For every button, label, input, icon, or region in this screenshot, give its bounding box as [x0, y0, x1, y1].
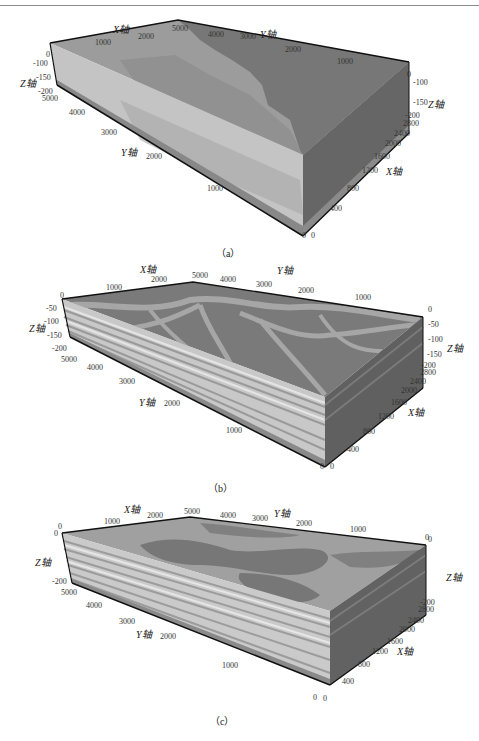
y-tick-back: 3000: [256, 280, 272, 289]
y-tick-front: 0: [313, 693, 317, 702]
x-tick-back: 1000: [106, 283, 122, 292]
figure-panel-c: X轴 1000 2000 5000 4000 3000 Y轴 2000 1000…: [0, 495, 479, 741]
x-tick-right: 2400: [394, 129, 410, 138]
y-tick-back: 1000: [350, 525, 366, 534]
x-tick-right: 400: [330, 204, 342, 213]
y-tick-front: 2000: [160, 632, 176, 641]
y-tick-front: 4000: [69, 108, 85, 117]
x-tick-right: 1600: [387, 637, 403, 646]
block-model-b: [0, 255, 479, 495]
x-tick-back: 2000: [151, 275, 167, 284]
x-axis-title-right: X轴: [408, 407, 424, 418]
y-tick-back: 0: [428, 305, 432, 314]
x-tick-right: 2400: [408, 616, 424, 625]
panel-caption-c: （c）: [210, 716, 234, 727]
x-tick-right: 2400: [410, 377, 426, 386]
y-tick-front: 0: [302, 231, 306, 240]
figure-panel-b: X轴 1000 2000 5000 4000 Y轴 3000 2000 1000…: [0, 255, 479, 495]
y-tick-back: 3000: [252, 514, 268, 523]
y-tick-back: 4000: [220, 511, 236, 520]
y-tick-back: 5000: [172, 24, 188, 33]
x-tick-right: 2800: [420, 368, 436, 377]
y-tick-front: 5000: [61, 588, 77, 597]
x-tick-back: 1000: [95, 38, 111, 47]
x-axis-title-back: X轴: [113, 24, 129, 35]
x-tick-right: 2000: [399, 625, 415, 634]
y-tick-back: 2000: [296, 519, 312, 528]
y-tick-back: 0: [407, 70, 411, 79]
z-tick-left: 0: [54, 529, 58, 538]
y-tick-front: 1000: [226, 426, 242, 435]
x-axis-title-back: X轴: [140, 264, 156, 275]
x-tick-back: 2000: [147, 511, 163, 520]
x-tick-right: 2000: [401, 386, 417, 395]
y-axis-title-back: Y轴: [277, 265, 293, 276]
z-axis-title-right: Z轴: [447, 343, 463, 354]
x-tick-right: 1200: [362, 166, 378, 175]
x-tick-right: 1600: [391, 398, 407, 407]
y-tick-front: 3000: [119, 617, 135, 626]
y-tick-front: 2000: [164, 399, 180, 408]
z-axis-title-left: Z轴: [29, 323, 45, 334]
z-tick-left: -50: [46, 304, 57, 313]
y-tick-back: 5000: [192, 271, 208, 280]
x-axis-title-right: X轴: [397, 646, 413, 657]
z-tick-right: -100: [428, 335, 443, 344]
z-tick-left: -200: [52, 577, 67, 586]
x-tick-right: 800: [347, 184, 359, 193]
y-axis-title-front: Y轴: [139, 397, 155, 408]
y-tick-front: 2000: [146, 152, 162, 161]
z-tick-right: -50: [428, 320, 439, 329]
z-axis-title-left: Z轴: [35, 557, 51, 568]
y-tick-back: 1000: [337, 57, 353, 66]
x-axis-title-right: X轴: [386, 166, 402, 177]
y-tick-back: 2000: [298, 286, 314, 295]
y-tick-front: 4000: [87, 363, 103, 372]
x-tick-back: 2000: [138, 32, 154, 41]
z-tick-left: 0: [46, 50, 50, 59]
y-tick-front: 1000: [207, 184, 223, 193]
y-axis-title-back: Y轴: [260, 29, 276, 40]
x-tick-right: 0: [323, 694, 327, 703]
z-tick-left: 0: [60, 291, 64, 300]
z-tick-right: -100: [413, 78, 428, 87]
y-tick-front: 3000: [101, 128, 117, 137]
y-tick-front: 0: [320, 462, 324, 471]
panel-caption-b: （b）: [208, 483, 233, 494]
y-tick-back: 5000: [184, 507, 200, 516]
y-tick-back: 4000: [220, 275, 236, 284]
y-tick-back: 3000: [240, 32, 256, 41]
x-tick-right: 1200: [378, 412, 394, 421]
y-tick-back: 1000: [355, 293, 371, 302]
z-tick-right: -150: [427, 350, 442, 359]
x-tick-right: 0: [311, 231, 315, 240]
z-tick-left: 0: [58, 522, 62, 531]
z-axis-title-right: Z轴: [428, 99, 444, 110]
x-tick-right: 400: [342, 677, 354, 686]
x-tick-right: 2800: [418, 605, 434, 614]
z-tick-right: 0: [428, 535, 432, 544]
y-tick-back: 2000: [285, 45, 301, 54]
x-tick-right: 800: [358, 660, 370, 669]
y-tick-front: 4000: [86, 601, 102, 610]
z-tick-right: -150: [413, 98, 428, 107]
z-tick-left: -100: [33, 59, 48, 68]
x-tick-right: 0: [330, 462, 334, 471]
y-tick-back: 4000: [208, 30, 224, 39]
y-axis-title-front: Y轴: [121, 147, 137, 158]
y-axis-title-front: Y轴: [136, 629, 152, 640]
z-tick-left: -100: [44, 317, 59, 326]
y-tick-front: 1000: [222, 661, 238, 670]
y-tick-front: 5000: [61, 355, 77, 364]
figure-panel-a: X轴 1000 2000 5000 4000 3000 Y轴 2000 1000…: [0, 0, 479, 250]
y-tick-front: 5000: [42, 94, 58, 103]
z-tick-left: -150: [36, 73, 51, 82]
y-tick-front: 3000: [119, 377, 135, 386]
z-axis-title-left: Z轴: [20, 78, 36, 89]
z-tick-left: -150: [47, 331, 62, 340]
y-axis-title-back: Y轴: [274, 508, 290, 519]
x-tick-back: 1000: [104, 517, 120, 526]
x-tick-right: 800: [363, 427, 375, 436]
x-tick-right: 2800: [403, 119, 419, 128]
x-tick-right: 400: [347, 445, 359, 454]
